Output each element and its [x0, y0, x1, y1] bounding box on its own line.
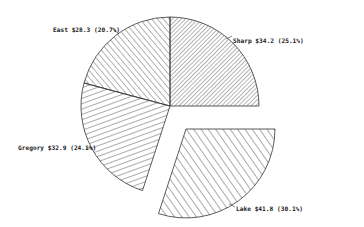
label-gregory: Gregory $32.9 (24.1%): [18, 144, 96, 152]
label-sharp: Sharp $34.2 (25.1%): [233, 37, 304, 45]
slice-sharp: [170, 17, 259, 106]
label-lake: Lake $41.8 (30.1%): [236, 205, 303, 212]
label-east: East $28.3 (20.7%): [53, 26, 120, 33]
pie-chart: Sharp $34.2 (25.1%) East $28.3 (20.7%) G…: [0, 0, 364, 227]
